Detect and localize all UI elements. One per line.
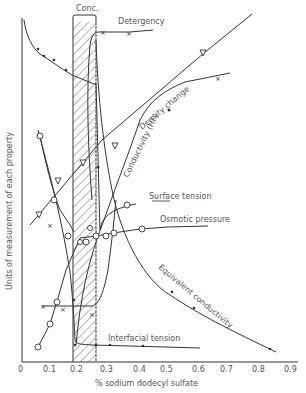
detergency-label: Detergency <box>118 17 165 26</box>
svg-text:0.5: 0.5 <box>160 365 173 374</box>
chart-canvas: Conc. 0 0.1 0.2 0.3 0.4 0.5 0.6 0.7 0.8 … <box>0 0 306 393</box>
interfacial-tension-curve <box>38 130 200 348</box>
svg-text:×: × <box>89 311 95 319</box>
cmc-band <box>73 15 96 362</box>
x-axis-label: % sodium dodecyl sulfate <box>95 379 198 388</box>
svg-text:×: × <box>126 30 132 38</box>
svg-text:0.9: 0.9 <box>284 365 297 374</box>
conc-bracket <box>73 15 96 22</box>
svg-text:0.4: 0.4 <box>133 365 146 374</box>
svg-text:×: × <box>40 303 46 311</box>
svg-text:0.6: 0.6 <box>192 365 205 374</box>
surface-tension-label: Surface tension <box>149 192 212 201</box>
conc-label: Conc. <box>76 4 99 13</box>
svg-text:0.3: 0.3 <box>100 365 113 374</box>
svg-text:×: × <box>215 75 221 83</box>
y-axis-label: Units of measurement of each property <box>5 132 14 290</box>
svg-text:0.1: 0.1 <box>43 365 56 374</box>
svg-text:0.7: 0.7 <box>220 365 233 374</box>
interfacial-tension-label: Interfacial tension <box>108 334 180 343</box>
svg-text:×: × <box>60 306 66 314</box>
svg-text:0.2: 0.2 <box>70 365 83 374</box>
svg-text:0.8: 0.8 <box>252 365 265 374</box>
svg-text:×: × <box>100 29 106 37</box>
density-change-line <box>30 14 252 225</box>
x-tick-labels: 0 0.1 0.2 0.3 0.4 0.5 0.6 0.7 0.8 0.9 <box>18 365 297 374</box>
osmotic-pressure-label: Osmotic pressure <box>160 215 230 224</box>
left-circle-curve <box>40 136 74 232</box>
svg-text:×: × <box>47 222 53 230</box>
equivalent-conductivity-label: Equivalent conductivity <box>157 263 235 331</box>
svg-text:0: 0 <box>18 365 23 374</box>
